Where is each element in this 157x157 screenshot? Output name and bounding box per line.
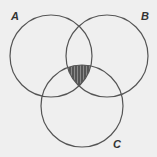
label-a: A	[11, 11, 19, 22]
label-c: C	[113, 139, 121, 150]
circle-a	[10, 15, 92, 97]
circle-b	[66, 15, 148, 97]
label-b: B	[141, 11, 149, 22]
venn-diagram	[0, 0, 157, 157]
